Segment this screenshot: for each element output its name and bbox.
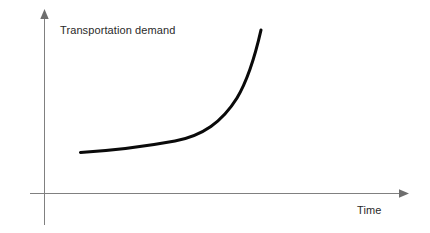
x-axis-arrow-icon: [399, 189, 409, 197]
y-axis-arrow-icon: [40, 9, 48, 19]
x-axis-label: Time: [357, 204, 381, 217]
chart-figure: Transportation demand Time: [0, 0, 430, 233]
series-label-transportation-demand: Transportation demand: [60, 24, 175, 37]
demand-curve: [81, 30, 262, 153]
